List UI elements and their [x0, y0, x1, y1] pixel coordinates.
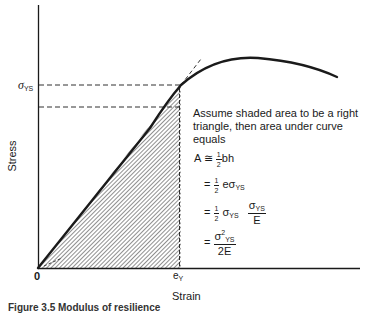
x-axis-label: Strain — [172, 290, 201, 302]
yield-stress-tick-label: σYS — [18, 78, 33, 93]
y-axis-label: Stress — [6, 140, 18, 171]
origin-label: 0 — [34, 270, 40, 282]
equation-3: = 12 σYS σYSE — [204, 200, 266, 226]
equation-4: = σ2YS2E — [204, 229, 236, 257]
figure-caption: Figure 3.5 Modulus of resilience — [8, 302, 160, 313]
annotation-block: Assume shaded area to be a right triangl… — [193, 107, 369, 146]
yield-strain-tick-label: eY — [173, 270, 183, 282]
equation-1: A ≅ 12bh — [194, 151, 234, 168]
equation-2: = 12 eσYS — [204, 177, 245, 194]
annotation-text: Assume shaded area to be a right triangl… — [193, 107, 369, 146]
